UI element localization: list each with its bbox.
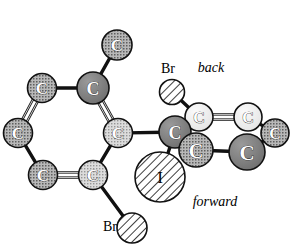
atom-carbon-ring2-f-label: C xyxy=(269,125,281,142)
back-label: back xyxy=(198,60,225,75)
atom-carbon-ring1-e-label: C xyxy=(37,166,49,185)
atom-carbon-ring1-f: C xyxy=(79,161,108,190)
atom-carbon-ring1-b-label: C xyxy=(87,79,100,99)
atom-carbon-ring2-a-label: C xyxy=(193,109,205,126)
atom-iodine-label: I xyxy=(157,168,163,187)
atom-bromine-bottom xyxy=(117,213,147,243)
atom-bromine-top xyxy=(160,80,185,105)
atom-carbon-ring1-f-label: C xyxy=(87,166,99,185)
forward-label: forward xyxy=(193,194,239,209)
atom-layer: CCCCCCCCCCCCCI xyxy=(4,30,290,243)
atom-iodine: I xyxy=(135,152,185,202)
atom-carbon-ring1-c-label: C xyxy=(12,124,24,143)
molecular-diagram-canvas: CCCCCCCCCCCCCI backforwardBrBr xyxy=(0,0,301,247)
atom-carbon-ring2-b: C xyxy=(234,103,262,131)
atom-carbon-ring1-d-label: C xyxy=(112,124,124,143)
atom-carbon-ring1-c: C xyxy=(4,119,33,148)
br-top-label: Br xyxy=(161,61,175,76)
atom-carbon-methyl-top-label: C xyxy=(111,36,123,55)
atom-carbon-ring1-a: C xyxy=(28,74,57,103)
atom-carbon-ring2-d: C xyxy=(179,133,213,167)
atom-carbon-ring2-e-label: C xyxy=(239,141,254,165)
atom-carbon-ring2-d-label: C xyxy=(189,140,203,162)
atom-bromine-top-sphere xyxy=(160,80,185,105)
atom-carbon-ring2-b-label: C xyxy=(242,109,254,126)
br-bottom-label: Br xyxy=(103,219,117,234)
atom-carbon-ring1-b: C xyxy=(77,72,109,104)
atom-carbon-quaternary-label: C xyxy=(169,123,182,143)
atom-bromine-bottom-sphere xyxy=(117,213,147,243)
atom-carbon-ring1-d: C xyxy=(104,119,133,148)
atom-carbon-ring2-f: C xyxy=(261,119,289,147)
bond-ring1f-bromine xyxy=(99,183,126,220)
molecule-svg: CCCCCCCCCCCCCI backforwardBrBr xyxy=(0,0,301,247)
atom-carbon-ring2-e: C xyxy=(229,134,265,170)
atom-carbon-ring1-a-label: C xyxy=(36,79,48,98)
atom-carbon-methyl-top: C xyxy=(102,30,132,60)
atom-carbon-ring1-e: C xyxy=(29,161,58,190)
